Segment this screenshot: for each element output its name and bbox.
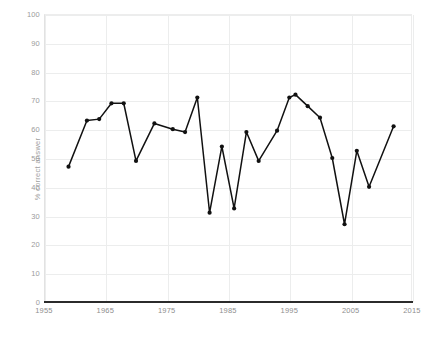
data-point (287, 95, 291, 99)
data-point (66, 165, 70, 169)
data-point (220, 144, 224, 148)
data-point (109, 101, 113, 105)
data-point (171, 127, 175, 131)
data-point (355, 149, 359, 153)
x-tick-label: 1975 (158, 306, 176, 315)
series-markers (66, 93, 395, 227)
data-point (183, 130, 187, 134)
data-point (208, 211, 212, 215)
data-point (134, 159, 138, 163)
x-tick-label: 2005 (342, 306, 360, 315)
x-tick-label: 1955 (35, 306, 53, 315)
data-point (97, 117, 101, 121)
data-point (195, 95, 199, 99)
data-point (330, 156, 334, 160)
data-point (275, 129, 279, 133)
data-point (392, 124, 396, 128)
x-tick-label: 1985 (219, 306, 237, 315)
data-point (122, 101, 126, 105)
data-point (85, 118, 89, 122)
data-point (152, 121, 156, 125)
x-tick-label: 1965 (97, 306, 115, 315)
data-point (257, 159, 261, 163)
data-series-layer (0, 0, 429, 338)
data-point (367, 185, 371, 189)
data-point (293, 93, 297, 97)
data-point (232, 206, 236, 210)
x-tick-label: 2015 (403, 306, 421, 315)
line-chart: % correct answer 0102030405060708090100 … (0, 0, 429, 338)
x-tick-label: 1995 (281, 306, 299, 315)
data-point (306, 104, 310, 108)
data-point (318, 116, 322, 120)
data-point (244, 130, 248, 134)
data-point (342, 222, 346, 226)
series-line (69, 95, 394, 225)
